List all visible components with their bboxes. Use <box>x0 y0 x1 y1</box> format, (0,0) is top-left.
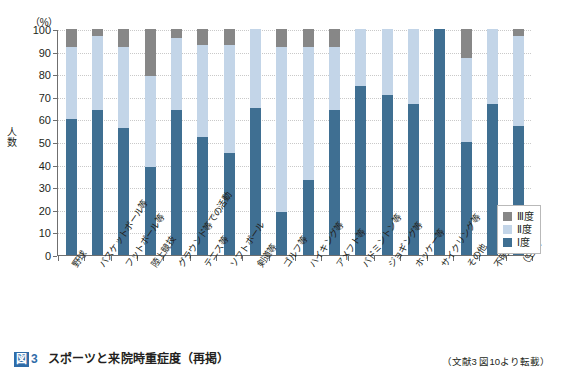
bar-segment-grade-ii <box>145 76 156 166</box>
bar-segment-grade-iii <box>224 29 235 45</box>
chart-canvas: （%） 人数 1009080706050403020100 野球バスケットボール… <box>0 0 563 340</box>
legend-label-iii: Ⅲ度 <box>517 212 534 222</box>
bar-column[interactable] <box>276 29 287 255</box>
bar-segment-grade-iii <box>461 29 472 58</box>
figure-caption: 図 3 スポーツと来院時重症度（再掲） （文献3 図10より転載） <box>0 350 563 374</box>
bar-segment-grade-i <box>92 110 103 255</box>
bar-segment-grade-ii <box>66 47 77 119</box>
bar-segment-grade-iii <box>303 29 314 47</box>
y-axis-tick-mark <box>53 53 57 54</box>
bar-segment-grade-ii <box>382 29 393 95</box>
y-axis-tick-label: 0 <box>17 251 51 262</box>
legend-label-ii: Ⅱ度 <box>517 225 532 235</box>
legend-swatch-iii <box>503 212 512 221</box>
legend-item-ii[interactable]: Ⅱ度 <box>503 223 534 236</box>
y-axis-tick-mark <box>53 211 57 212</box>
bar-column[interactable] <box>66 29 77 255</box>
bar-segment-grade-iii <box>171 29 182 38</box>
caption-title: スポーツと来院時重症度（再掲） <box>48 352 230 366</box>
y-axis-tick-label: 30 <box>17 183 51 194</box>
figure-container: （%） 人数 1009080706050403020100 野球バスケットボール… <box>0 0 563 390</box>
bar-column[interactable] <box>171 29 182 255</box>
bar-segment-grade-ii <box>92 36 103 111</box>
caption-source: （文献3 図10より転載） <box>442 354 551 368</box>
bar-column[interactable] <box>303 29 314 255</box>
x-axis-labels-group: 野球バスケットボール等フットボール等陸上競技グラウンド等での活動テニス等ソフトボ… <box>57 256 531 340</box>
y-axis-tick-label: 50 <box>17 138 51 149</box>
y-axis-tick-label: 70 <box>17 93 51 104</box>
y-axis-tick-label: 10 <box>17 228 51 239</box>
legend-item-iii[interactable]: Ⅲ度 <box>503 210 534 223</box>
y-axis-tick-label: 40 <box>17 161 51 172</box>
bar-segment-grade-ii <box>513 36 524 126</box>
y-axis-tick-mark <box>53 98 57 99</box>
bar-segment-grade-ii <box>355 29 366 86</box>
bar-column[interactable] <box>92 29 103 255</box>
bar-segment-grade-ii <box>329 47 340 110</box>
bar-segment-grade-ii <box>303 47 314 180</box>
bar-segment-grade-iii <box>118 29 129 47</box>
bar-segment-grade-i <box>434 29 445 255</box>
bar-segment-grade-ii <box>171 38 182 110</box>
y-axis-tick-mark <box>53 30 57 31</box>
y-axis-tick-mark <box>53 75 57 76</box>
y-axis-tick-label: 60 <box>17 115 51 126</box>
bar-segment-grade-ii <box>224 45 235 153</box>
bar-column[interactable] <box>224 29 235 255</box>
y-axis-tick-mark <box>53 188 57 189</box>
bar-segment-grade-iii <box>197 29 208 45</box>
caption-badge: 図 <box>14 352 29 367</box>
bar-column[interactable] <box>434 29 445 255</box>
y-axis-tick-label: 90 <box>17 48 51 59</box>
bar-segment-grade-iii <box>329 29 340 47</box>
legend-swatch-ii <box>503 225 512 234</box>
bar-segment-grade-ii <box>118 47 129 128</box>
bar-segment-grade-ii <box>197 45 208 138</box>
y-axis-tick-mark <box>53 233 57 234</box>
y-axis-tick-label: 100 <box>17 25 51 36</box>
y-axis-tick-mark <box>53 143 57 144</box>
legend-label-i: Ⅰ度 <box>517 238 530 248</box>
y-axis-tick-mark <box>53 120 57 121</box>
bar-segment-grade-ii <box>250 29 261 108</box>
bar-segment-grade-ii <box>487 29 498 104</box>
caption-number: 3 <box>31 352 38 366</box>
bar-column[interactable] <box>355 29 366 255</box>
y-axis-tick-label: 20 <box>17 206 51 217</box>
bar-segment-grade-iii <box>66 29 77 47</box>
y-axis-tick-mark <box>53 166 57 167</box>
bar-segment-grade-iii <box>513 29 524 36</box>
bar-segment-grade-iii <box>145 29 156 76</box>
legend-item-i[interactable]: Ⅰ度 <box>503 236 534 249</box>
y-axis-tick-label: 80 <box>17 70 51 81</box>
bar-segment-grade-iii <box>92 29 103 36</box>
bar-segment-grade-ii <box>408 29 419 104</box>
chart-legend: Ⅲ度 Ⅱ度 Ⅰ度 <box>497 205 541 254</box>
bar-segment-grade-ii <box>461 58 472 142</box>
bar-segment-grade-i <box>66 119 77 255</box>
bar-segment-grade-iii <box>276 29 287 47</box>
bar-segment-grade-i <box>171 110 182 255</box>
legend-swatch-i <box>503 238 512 247</box>
bar-segment-grade-ii <box>276 47 287 212</box>
